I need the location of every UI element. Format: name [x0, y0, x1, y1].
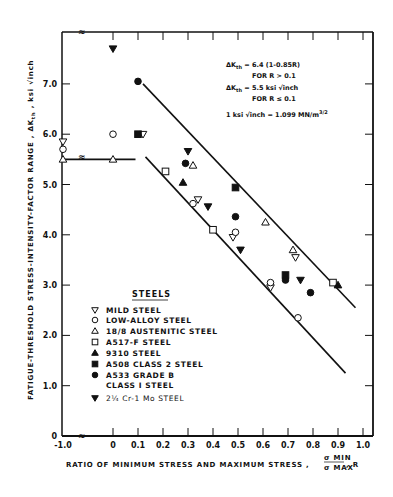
data-point	[110, 131, 117, 138]
y-tick-label: 5.0	[43, 181, 58, 190]
axis-break-icon: ≈ ≈ ≈	[78, 27, 86, 441]
data-point	[292, 255, 300, 262]
svg-text:FOR R ≤ 0.1: FOR R ≤ 0.1	[252, 95, 296, 103]
legend-marker-icon	[92, 317, 98, 323]
svg-text:ΔKth = 6.4 (1-0.85R): ΔKth = 6.4 (1-0.85R)	[226, 61, 300, 70]
legend-marker-icon	[92, 396, 99, 402]
data-point	[189, 162, 197, 169]
data-point	[179, 179, 187, 186]
legend-label: 18/8 AUSTENITIC STEEL	[106, 327, 218, 336]
data-point	[135, 78, 142, 85]
y-axis-title: FATIGUE-THRESHOLD STRESS-INTENSITY-FACTO…	[27, 60, 36, 400]
data-point	[262, 218, 270, 225]
y-tick-label: 4.0	[43, 231, 58, 240]
legend-marker-icon	[92, 328, 99, 334]
y-tick-label: 3.0	[43, 281, 58, 290]
svg-text:, R: , R	[346, 461, 359, 469]
legend-label: A533 GRADE B	[106, 371, 175, 380]
x-tick-label: 1.0	[356, 441, 371, 450]
legend-label: CLASS I STEEL	[106, 381, 174, 390]
data-point	[109, 46, 117, 53]
svg-text:≈: ≈	[78, 431, 86, 441]
x-axis-title: RATIO OF MINIMUM STRESS AND MAXIMUM STRE…	[66, 454, 359, 472]
data-point	[295, 314, 302, 321]
legend-label: A517-F STEEL	[106, 338, 171, 347]
y-tick-label: 7.0	[43, 80, 58, 89]
data-point	[289, 246, 297, 253]
data-point	[232, 229, 239, 236]
legend-marker-icon	[92, 372, 98, 378]
data-point	[190, 200, 197, 207]
data-point	[210, 226, 217, 233]
legend-label: 9310 STEEL	[106, 349, 161, 358]
y-tick-label: 2.0	[43, 331, 58, 340]
svg-text:ΔKth = 5.5 ksi √inch: ΔKth = 5.5 ksi √inch	[226, 84, 299, 93]
x-tick-label: 0.9	[331, 441, 346, 450]
legend-marker-icon	[92, 308, 99, 314]
data-point	[267, 279, 274, 286]
svg-text:≈: ≈	[78, 152, 86, 162]
legend-label: LOW-ALLOY STEEL	[106, 316, 192, 325]
data-point	[237, 247, 245, 254]
data-point	[232, 213, 239, 220]
svg-text:RATIO OF MINIMUM STRESS AND MA: RATIO OF MINIMUM STRESS AND MAXIMUM STRE…	[66, 461, 310, 469]
data-point	[204, 204, 212, 211]
x-tick-label: 0.5	[231, 441, 246, 450]
svg-text:FATIGUE-THRESHOLD STRESS-INTEN: FATIGUE-THRESHOLD STRESS-INTENSITY-FACTO…	[27, 60, 36, 400]
x-tick-label: 0.6	[256, 441, 271, 450]
svg-text:≈: ≈	[78, 27, 86, 37]
y-tick-label: 1.0	[43, 382, 58, 391]
x-tick-label: 0.4	[206, 441, 221, 450]
svg-text:1 ksi √inch = 1.099 MN/m3/2: 1 ksi √inch = 1.099 MN/m3/2	[226, 109, 328, 119]
legend-marker-icon	[92, 350, 99, 356]
data-point	[60, 146, 67, 153]
legend-marker-icon	[92, 361, 98, 367]
data-point	[162, 168, 169, 175]
x-tick-label: 0.3	[181, 441, 195, 450]
data-point	[307, 289, 314, 296]
y-axis-ticks: 01.02.03.04.05.06.07.0	[43, 80, 373, 441]
x-tick-label: -1.0	[54, 441, 72, 450]
svg-text:STEELS: STEELS	[132, 290, 171, 299]
y-tick-label: 0	[51, 432, 57, 441]
data-point	[330, 279, 337, 286]
data-point	[135, 131, 142, 138]
data-point	[232, 184, 239, 191]
x-tick-label: 0.8	[306, 441, 321, 450]
legend-label: A508 CLASS 2 STEEL	[106, 360, 203, 369]
x-tick-label: 0.1	[131, 441, 146, 450]
legend-label: MILD STEEL	[106, 306, 161, 315]
data-point	[59, 139, 67, 146]
data-points	[59, 46, 342, 321]
x-axis-ticks: -1.000.10.20.30.40.50.60.70.80.91.0	[54, 32, 370, 450]
data-point	[282, 277, 289, 284]
x-tick-label: 0.7	[281, 441, 295, 450]
equation-annotation: ΔKth = 6.4 (1-0.85R) FOR R > 0.1 ΔKth = …	[226, 61, 328, 119]
x-tick-label: 0	[110, 441, 116, 450]
data-point	[182, 160, 189, 167]
svg-text:FOR R > 0.1: FOR R > 0.1	[252, 72, 296, 80]
x-tick-label: 0.2	[156, 441, 170, 450]
legend-marker-icon	[92, 339, 98, 345]
legend-label: 2¼ Cr-1 Mo STEEL	[106, 394, 184, 403]
data-point	[184, 149, 192, 156]
data-point	[297, 277, 305, 284]
y-tick-label: 6.0	[43, 130, 58, 139]
legend: STEELS MILD STEELLOW-ALLOY STEEL18/8 AUS…	[92, 290, 218, 403]
fatigue-threshold-chart: -1.000.10.20.30.40.50.60.70.80.91.0 01.0…	[0, 0, 393, 497]
